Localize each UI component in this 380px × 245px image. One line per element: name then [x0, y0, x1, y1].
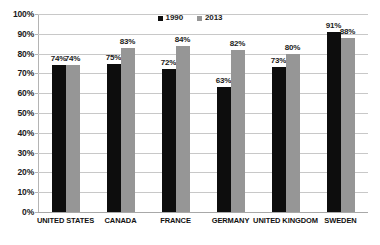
bar-value-label: 83%: [117, 38, 139, 46]
bar-group: 72%84%: [148, 14, 203, 212]
bar-group: 91%88%: [313, 14, 368, 212]
bar-value-label: 80%: [282, 44, 304, 52]
y-axis-tick-label: 10%: [18, 188, 34, 197]
bar-2013[interactable]: [121, 48, 135, 212]
bar-1990[interactable]: [217, 87, 231, 212]
bar-group: 73%80%: [258, 14, 313, 212]
bar-2013[interactable]: [231, 50, 245, 212]
bar-2013[interactable]: [286, 54, 300, 212]
axis-baseline: [38, 212, 368, 213]
bar-value-label: 88%: [337, 28, 359, 36]
y-axis-tick-label: 0%: [22, 208, 34, 217]
bar-group: 75%83%: [93, 14, 148, 212]
bar-value-label: 74%: [62, 55, 84, 63]
bar-2013[interactable]: [66, 65, 80, 212]
x-axis-category-label: SWEDEN: [307, 216, 374, 225]
x-axis: UNITED STATESCANADAFRANCEGERMANYUNITED K…: [38, 216, 368, 232]
bar-1990[interactable]: [327, 32, 341, 212]
bar-2013[interactable]: [176, 46, 190, 212]
bar-value-label: 82%: [227, 40, 249, 48]
bar-1990[interactable]: [52, 65, 66, 212]
bar-1990[interactable]: [162, 69, 176, 212]
y-axis-tick-label: 100%: [13, 10, 34, 19]
y-axis-tick-label: 20%: [18, 168, 34, 177]
bar-chart: 0%10%20%30%40%50%60%70%80%90%100% 74%74%…: [0, 0, 380, 245]
bar-group: 74%74%: [38, 14, 93, 212]
y-axis-tick-label: 60%: [18, 89, 34, 98]
y-axis-tick-label: 80%: [18, 49, 34, 58]
y-axis-tick-label: 40%: [18, 129, 34, 138]
bar-value-label: 84%: [172, 36, 194, 44]
bar-group: 63%82%: [203, 14, 258, 212]
bar-1990[interactable]: [272, 67, 286, 212]
y-axis-tick-label: 90%: [18, 30, 34, 39]
bar-2013[interactable]: [341, 38, 355, 212]
bar-1990[interactable]: [107, 64, 121, 213]
y-axis-tick-label: 50%: [18, 109, 34, 118]
y-axis-tick-label: 70%: [18, 69, 34, 78]
y-axis-tick-label: 30%: [18, 148, 34, 157]
bars-layer: 74%74%75%83%72%84%63%82%73%80%91%88%: [38, 14, 368, 212]
y-axis: 0%10%20%30%40%50%60%70%80%90%100%: [0, 14, 34, 212]
plot-area: 74%74%75%83%72%84%63%82%73%80%91%88%: [38, 14, 368, 212]
